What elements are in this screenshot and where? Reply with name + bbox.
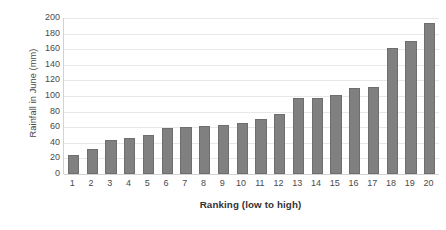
y-axis-tick-label: 40 — [36, 137, 60, 148]
bar[interactable] — [349, 88, 360, 174]
bar-slot — [327, 18, 346, 174]
x-axis-tick-label: 8 — [194, 178, 213, 189]
x-axis-title: Ranking (low to high) — [63, 199, 438, 210]
bar[interactable] — [162, 128, 173, 174]
bar-slot — [402, 18, 421, 174]
y-axis-tick-labels: 200180160140120100806040200 — [36, 12, 60, 180]
x-axis-tick-label: 13 — [288, 178, 307, 189]
y-axis-tick-label: 20 — [36, 152, 60, 163]
bar-slot — [364, 18, 383, 174]
bar-slot — [120, 18, 139, 174]
bar[interactable] — [424, 23, 435, 174]
bar-slot — [308, 18, 327, 174]
x-axis-tick-label: 9 — [213, 178, 232, 189]
bar[interactable] — [387, 48, 398, 174]
bar[interactable] — [237, 123, 248, 174]
x-axis-tick-label: 17 — [363, 178, 382, 189]
x-axis-tick-label: 20 — [419, 178, 438, 189]
bar-slot — [158, 18, 177, 174]
bar[interactable] — [87, 149, 98, 174]
bar-slot — [83, 18, 102, 174]
y-axis-tick-label: 200 — [36, 12, 60, 23]
y-axis-tick-label: 160 — [36, 43, 60, 54]
y-axis-tick-label: 80 — [36, 106, 60, 117]
x-axis-tick-label: 16 — [344, 178, 363, 189]
y-axis-tick-label: 140 — [36, 59, 60, 70]
bar[interactable] — [105, 140, 116, 174]
bar[interactable] — [143, 135, 154, 174]
bar[interactable] — [312, 98, 323, 174]
x-axis-tick-label: 6 — [157, 178, 176, 189]
x-axis-tick-label: 2 — [82, 178, 101, 189]
x-axis-tick-label: 1 — [63, 178, 82, 189]
plot-area — [63, 18, 439, 174]
x-axis-tick-label: 4 — [119, 178, 138, 189]
y-axis-tick-label: 120 — [36, 74, 60, 85]
bar[interactable] — [255, 119, 266, 174]
bar-slot — [420, 18, 439, 174]
bar[interactable] — [293, 98, 304, 174]
bar-slot — [195, 18, 214, 174]
bar[interactable] — [199, 126, 210, 174]
bar-slot — [102, 18, 121, 174]
x-axis-tick-label: 11 — [251, 178, 270, 189]
bar[interactable] — [180, 127, 191, 174]
bar[interactable] — [218, 125, 229, 174]
bar-slot — [383, 18, 402, 174]
bar-slot — [233, 18, 252, 174]
bar[interactable] — [124, 138, 135, 174]
x-axis-tick-label: 19 — [401, 178, 420, 189]
bar[interactable] — [68, 155, 79, 175]
x-axis-tick-label: 15 — [326, 178, 345, 189]
y-axis-tick-label: 180 — [36, 28, 60, 39]
x-axis-tick-label: 3 — [101, 178, 120, 189]
x-axis-tick-label: 12 — [269, 178, 288, 189]
x-axis-tick-label: 7 — [176, 178, 195, 189]
x-axis-tick-label: 10 — [232, 178, 251, 189]
y-axis-tick-label: 60 — [36, 121, 60, 132]
x-axis-tick-label: 14 — [307, 178, 326, 189]
bar-slot — [64, 18, 83, 174]
bar-slot — [252, 18, 271, 174]
bar-slot — [214, 18, 233, 174]
bar-slot — [139, 18, 158, 174]
x-axis-tick-labels: 1234567891011121314151617181920 — [63, 178, 438, 189]
bar[interactable] — [368, 87, 379, 174]
x-axis-tick-label: 18 — [382, 178, 401, 189]
bar-slot — [345, 18, 364, 174]
x-axis-tick-label: 5 — [138, 178, 157, 189]
axis-baseline — [64, 174, 439, 175]
bars-group — [64, 18, 439, 174]
bar[interactable] — [405, 41, 416, 174]
bar-slot — [289, 18, 308, 174]
bar-slot — [177, 18, 196, 174]
y-axis-tick-label: 0 — [36, 168, 60, 179]
y-axis-tick-label: 100 — [36, 90, 60, 101]
bar-slot — [270, 18, 289, 174]
bar[interactable] — [274, 114, 285, 174]
bar-chart: Rainfall in June (mm) 200180160140120100… — [0, 0, 446, 230]
bar[interactable] — [330, 95, 341, 174]
